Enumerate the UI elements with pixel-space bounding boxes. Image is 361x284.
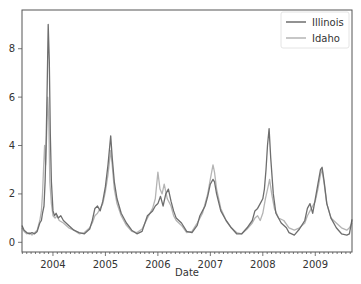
x-tick-label: 2009	[303, 259, 328, 270]
series-line-idaho	[22, 97, 352, 235]
y-tick-label: 6	[9, 92, 15, 103]
x-tick-label: 2008	[250, 259, 275, 270]
series-line-illinois	[22, 25, 352, 236]
y-tick-label: 0	[9, 237, 15, 248]
x-tick-label: 2004	[40, 259, 65, 270]
line-chart: 200420052006200720082009 02468 Date Illi…	[0, 0, 361, 284]
x-tick-label: 2006	[145, 259, 170, 270]
x-tick-label: 2005	[93, 259, 118, 270]
y-axis: 02468	[9, 43, 22, 248]
legend: Illinois Idaho	[281, 12, 349, 48]
series-layer	[22, 25, 352, 236]
chart-canvas: 200420052006200720082009 02468 Date Illi…	[0, 0, 361, 284]
x-axis-label: Date	[175, 267, 199, 278]
y-tick-label: 8	[9, 43, 15, 54]
x-tick-label: 2007	[198, 259, 223, 270]
y-tick-label: 4	[9, 140, 15, 151]
y-tick-label: 2	[9, 188, 15, 199]
legend-label-idaho: Idaho	[312, 33, 340, 44]
legend-label-illinois: Illinois	[312, 17, 344, 28]
